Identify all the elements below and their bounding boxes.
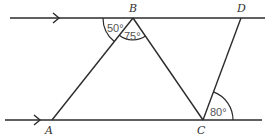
point-label-b: B bbox=[128, 2, 137, 15]
angle-label-b-75: 75° bbox=[124, 30, 141, 42]
segment-cd bbox=[203, 18, 241, 120]
geometry-diagram: B D A C 50° 75° 80° bbox=[0, 0, 270, 137]
point-label-d: D bbox=[236, 2, 246, 15]
angle-label-c-80: 80° bbox=[210, 106, 227, 118]
point-label-a: A bbox=[44, 124, 53, 137]
segment-bc bbox=[133, 18, 203, 120]
angle-label-b-50: 50° bbox=[107, 22, 124, 34]
point-label-c: C bbox=[197, 124, 206, 137]
